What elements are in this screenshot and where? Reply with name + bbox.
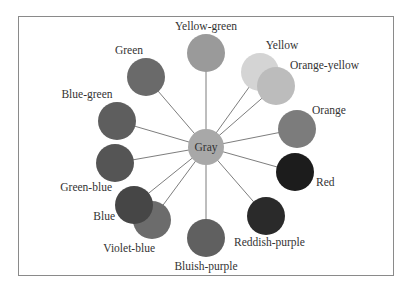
label-violet-blue: Violet-blue — [103, 242, 155, 254]
circle-bluish-purple — [187, 219, 225, 257]
node-orange: Orange — [278, 104, 346, 148]
circle-green-blue — [96, 144, 134, 182]
center-label: Gray — [195, 141, 218, 154]
label-orange-yellow: Orange-yellow — [290, 59, 360, 72]
circle-red — [276, 153, 314, 191]
label-green-blue: Green-blue — [60, 181, 112, 193]
label-blue: Blue — [93, 210, 115, 222]
label-blue-green: Blue-green — [61, 88, 112, 101]
node-green: Green — [115, 44, 165, 96]
circle-blue — [115, 186, 153, 224]
label-reddish-purple: Reddish-purple — [234, 236, 305, 249]
circle-blue-green — [98, 102, 136, 140]
node-red: Red — [276, 153, 335, 191]
center-node: Gray — [188, 129, 224, 165]
label-green: Green — [115, 44, 143, 56]
label-red: Red — [316, 176, 335, 188]
color-wheel-diagram: Yellow-greenYellowOrange-yellowOrangeRed… — [0, 0, 408, 289]
node-blue-green: Blue-green — [61, 88, 136, 140]
node-bluish-purple: Bluish-purple — [174, 219, 237, 273]
node-green-blue: Green-blue — [60, 144, 134, 193]
label-orange: Orange — [312, 104, 346, 117]
label-yellow: Yellow — [266, 39, 299, 51]
circle-yellow-green — [187, 34, 225, 72]
circle-green — [127, 58, 165, 96]
node-reddish-purple: Reddish-purple — [234, 197, 305, 249]
circle-orange-yellow — [257, 67, 295, 105]
node-yellow-green: Yellow-green — [175, 20, 237, 72]
label-bluish-purple: Bluish-purple — [174, 260, 237, 273]
circle-orange — [278, 110, 316, 148]
circle-reddish-purple — [247, 197, 285, 235]
label-yellow-green: Yellow-green — [175, 20, 237, 33]
